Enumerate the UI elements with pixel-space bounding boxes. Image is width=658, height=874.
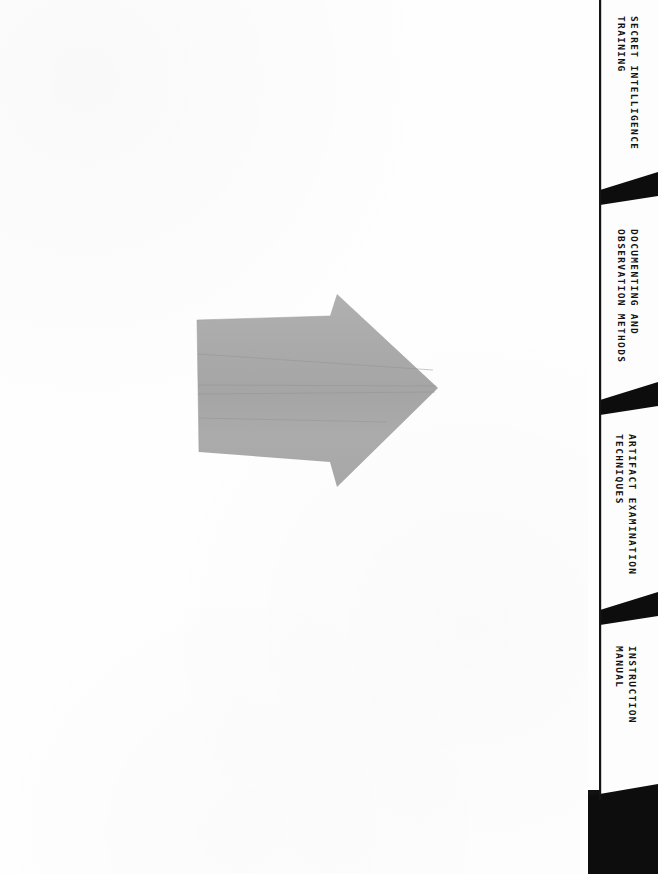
tab-label-line-1: INSTRUCTION <box>626 646 639 724</box>
cut-paper-arrow <box>186 282 452 500</box>
tab-label-line-2: OBSERVATION METHODS <box>615 229 628 363</box>
tab-label-line-1: ARTIFACT EXAMINATION <box>626 434 639 575</box>
tab-label-instruction-manual[interactable]: INSTRUCTION MANUAL <box>613 646 639 724</box>
tab-label-line-2: TRAINING <box>615 16 628 150</box>
tab-label-line-1: DOCUMENTING AND <box>628 229 641 363</box>
tab-strip-bottom-shadow <box>588 784 658 874</box>
tab-label-artifact-examination-techniques[interactable]: ARTIFACT EXAMINATION TECHNIQUES <box>613 434 639 575</box>
tab-fold-line <box>599 0 601 800</box>
arrow-shape <box>197 294 438 487</box>
tab-label-secret-intelligence-training[interactable]: SECRET INTELLIGENCE TRAINING <box>615 16 641 150</box>
tab-label-line-2: MANUAL <box>613 646 626 724</box>
divider-page: SECRET INTELLIGENCE TRAINING DOCUMENTING… <box>0 0 658 874</box>
tab-label-documenting-and-observation-methods[interactable]: DOCUMENTING AND OBSERVATION METHODS <box>615 229 641 363</box>
tab-label-line-1: SECRET INTELLIGENCE <box>628 16 641 150</box>
tab-label-line-2: TECHNIQUES <box>613 434 626 575</box>
